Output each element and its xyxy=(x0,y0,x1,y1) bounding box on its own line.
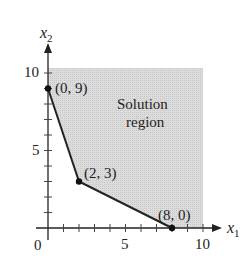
x-tick-5-label: 5 xyxy=(121,236,129,252)
x-axis-label: x1 xyxy=(226,219,240,239)
region-label-line2: region xyxy=(126,114,165,130)
region-label-line1: Solution xyxy=(117,96,168,112)
point-2-3 xyxy=(76,178,82,184)
point-label-0-9: (0, 9) xyxy=(55,80,88,97)
origin-label: 0 xyxy=(34,237,42,253)
point-0-9 xyxy=(45,85,51,91)
y-axis-label: x2 xyxy=(39,24,53,44)
feasible-region-diagram: 0 5 10 5 10 x2 x1 (0, 9) (2, 3) (8, 0) S… xyxy=(0,0,252,280)
x-axis-arrow-icon xyxy=(212,224,222,232)
y-tick-5-label: 5 xyxy=(32,142,40,158)
point-label-8-0: (8, 0) xyxy=(158,207,191,224)
point-label-2-3: (2, 3) xyxy=(84,165,117,182)
y-axis-arrow-icon xyxy=(44,43,52,53)
y-tick-10-label: 10 xyxy=(24,64,39,80)
x-tick-10-label: 10 xyxy=(195,236,210,252)
point-8-0 xyxy=(169,225,175,231)
